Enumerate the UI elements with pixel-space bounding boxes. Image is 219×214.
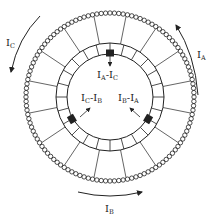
svg-text:IC: IC: [6, 37, 15, 50]
current-label-ic: IC: [6, 37, 15, 50]
coil-loops: [24, 11, 196, 183]
commutator-segment-divider: [83, 50, 89, 60]
arrow-right-brush: [130, 108, 140, 117]
commutator-inner-ring: [67, 54, 153, 140]
spoke-line: [94, 150, 99, 177]
spoke-line: [64, 142, 80, 165]
commutator-segment-divider: [132, 50, 138, 60]
spoke-line: [94, 17, 99, 44]
svg-text:IA: IA: [197, 49, 206, 62]
coil-winding-ring: [24, 11, 196, 183]
current-arrow-ib: [78, 192, 142, 196]
spoke-line: [42, 127, 65, 143]
spoke-line: [30, 108, 57, 113]
commutator-segment-divider: [152, 108, 163, 111]
commutator-segment-divider: [58, 83, 69, 86]
commutator-segment-divider: [63, 70, 73, 76]
commutator-segment-divider: [140, 59, 148, 67]
spoke-line: [140, 142, 156, 165]
winding-connections: [30, 17, 191, 178]
armature-diagram: IA-IC IC-IB IB-IA IC IA IB: [0, 0, 219, 214]
brush-label-lower-right: IB-IA: [118, 92, 139, 105]
spoke-line: [64, 29, 80, 52]
spoke-line: [42, 51, 65, 67]
spoke-line: [155, 127, 178, 143]
spoke-line: [155, 51, 178, 67]
commutator-segment-divider: [83, 134, 89, 144]
commutator-segment-divider: [72, 127, 80, 135]
spoke-line: [163, 108, 190, 113]
commutator-segment-divider: [147, 70, 157, 76]
spoke-line: [121, 17, 126, 44]
spoke-line: [163, 81, 190, 86]
brush-label-top: IA-IC: [97, 69, 118, 82]
commutator-segment-divider: [58, 108, 69, 111]
svg-text:IB-IA: IB-IA: [118, 92, 139, 105]
commutator-segment-divider: [140, 127, 148, 135]
current-label-ib: IB: [105, 203, 114, 214]
brush-label-lower-left: IC-IB: [81, 92, 102, 105]
commutator-segment-divider: [132, 134, 138, 144]
commutator-segment-divider: [121, 45, 124, 56]
svg-text:IC-IB: IC-IB: [81, 92, 102, 105]
current-label-ia: IA: [197, 49, 206, 62]
arrow-left-brush: [80, 108, 90, 117]
spoke-line: [140, 29, 156, 52]
commutator-segment-divider: [96, 139, 99, 150]
commutator-segment-divider: [152, 83, 163, 86]
spoke-line: [121, 150, 126, 177]
spoke-line: [30, 81, 57, 86]
commutator-segment-divider: [121, 139, 124, 150]
svg-text:IA-IC: IA-IC: [97, 69, 118, 82]
svg-text:IB: IB: [105, 203, 114, 214]
commutator-segment-divider: [96, 45, 99, 56]
commutator-segment-divider: [72, 59, 80, 67]
